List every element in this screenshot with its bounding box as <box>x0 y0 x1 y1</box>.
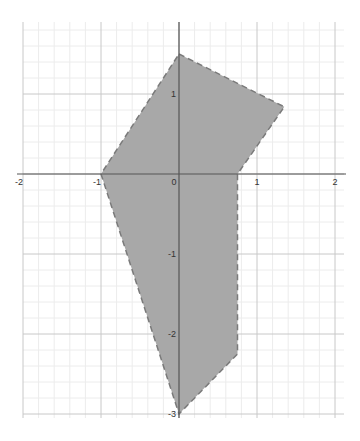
y-tick-label: 1 <box>171 89 176 99</box>
coordinate-plane: -2-10121-1-2-3 <box>0 0 360 441</box>
x-tick-label: 0 <box>171 177 176 187</box>
y-tick-label: -1 <box>168 249 176 259</box>
y-tick-label: -2 <box>168 329 176 339</box>
y-tick-label: -3 <box>168 409 176 419</box>
x-tick-label: -2 <box>15 177 23 187</box>
x-tick-label: -1 <box>93 177 101 187</box>
x-tick-label: 1 <box>254 177 259 187</box>
x-tick-label: 2 <box>332 177 337 187</box>
